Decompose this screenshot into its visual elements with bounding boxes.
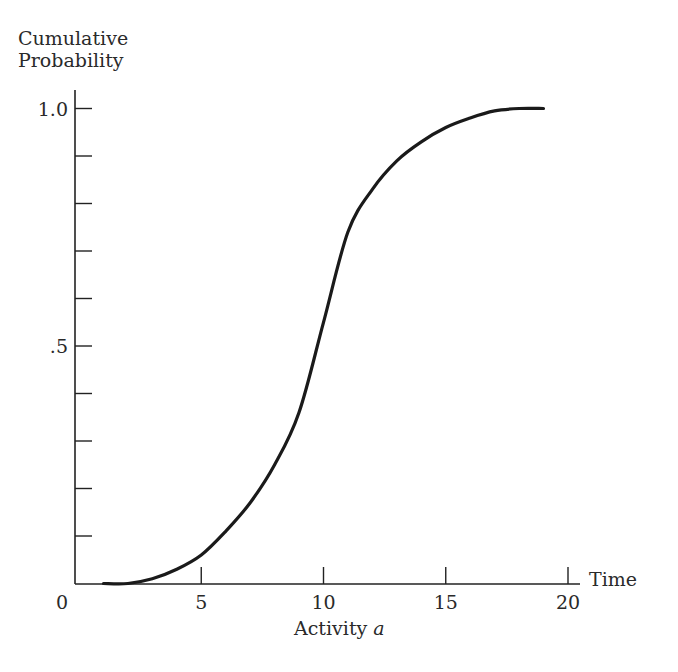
x-tick-label: 15 xyxy=(434,591,458,613)
axes: .51.0 5101520 xyxy=(38,90,580,613)
x-tick-label: 20 xyxy=(556,591,580,613)
x-ticks: 5101520 xyxy=(195,567,580,613)
y-ticks: .51.0 xyxy=(38,98,92,537)
x-axis-end-label: Time xyxy=(589,568,637,590)
x-axis-label-variable: a xyxy=(373,617,384,639)
x-tick-label: 10 xyxy=(311,591,335,613)
cdf-curve xyxy=(103,108,543,584)
y-tick-label: .5 xyxy=(50,335,68,357)
x-axis-label: Activity a xyxy=(293,617,385,639)
x-tick-label: 5 xyxy=(195,591,207,613)
y-tick-label: 1.0 xyxy=(38,98,68,120)
x-axis-label-main: Activity xyxy=(293,617,373,639)
origin-label: 0 xyxy=(56,591,68,613)
cumulative-probability-chart: .51.0 5101520 0 Time Activity a xyxy=(0,0,678,672)
